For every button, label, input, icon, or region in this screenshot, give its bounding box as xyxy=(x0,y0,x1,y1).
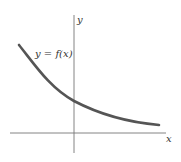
y-axis-label: y xyxy=(76,14,83,25)
function-graph: y = f(x) y x xyxy=(0,0,181,162)
curve-label: y = f(x) xyxy=(34,48,73,59)
x-axis-label: x xyxy=(166,133,172,144)
